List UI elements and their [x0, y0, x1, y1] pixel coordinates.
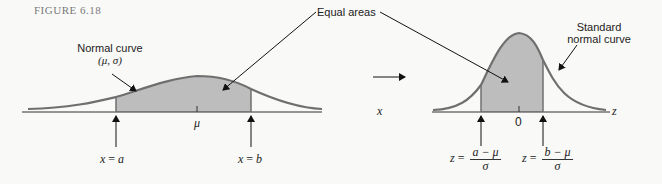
standard-normal-label: Standard normal curve: [564, 21, 634, 45]
equals: =: [108, 152, 115, 166]
var-x: x: [238, 152, 243, 166]
figure: FIGURE 6.18: [0, 0, 662, 184]
right-normal-plot: [432, 33, 610, 146]
val-b: b: [256, 152, 262, 166]
val-a: a: [118, 152, 124, 166]
denominator: σ: [555, 160, 561, 173]
fraction-b: b − μ σ: [542, 146, 572, 173]
arrow-normal-curve: [112, 74, 136, 91]
arrow-equal-areas-right: [380, 12, 508, 82]
denominator: σ: [483, 160, 489, 173]
var-x: x: [100, 152, 105, 166]
normal-curve-label-line1: Normal curve: [70, 42, 150, 54]
var-z: z: [522, 151, 527, 165]
normal-curve-label: Normal curve (μ, σ): [70, 42, 150, 66]
upper-bound-x-label: x = b: [238, 153, 262, 165]
numerator: a − μ: [470, 146, 500, 160]
lower-bound-x-label: x = a: [100, 153, 124, 165]
upper-bound-z-label: z = b − μ σ: [522, 146, 573, 173]
lower-bound-z-label: z = a − μ σ: [450, 146, 501, 173]
mu-label: μ: [194, 117, 200, 129]
z-axis-label: z: [612, 105, 617, 117]
left-normal-plot: [22, 74, 322, 147]
numerator: b − μ: [542, 146, 572, 160]
equals: =: [530, 151, 537, 165]
arrow-standard-curve: [559, 45, 577, 70]
standard-normal-line2: normal curve: [564, 33, 634, 45]
arrow-equal-areas-left: [223, 12, 316, 90]
fraction-a: a − μ σ: [470, 146, 500, 173]
equal-areas-label: Equal areas: [317, 6, 376, 18]
standard-normal-line1: Standard: [564, 21, 634, 33]
normal-curve-params: (μ, σ): [70, 54, 150, 66]
x-axis-label: x: [377, 105, 382, 117]
equals: =: [458, 151, 465, 165]
var-z: z: [450, 151, 455, 165]
equals: =: [246, 152, 253, 166]
zero-label: 0: [515, 116, 522, 128]
